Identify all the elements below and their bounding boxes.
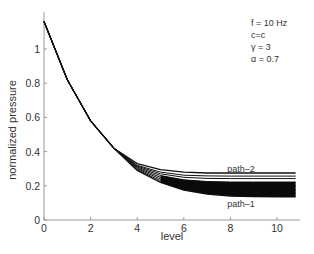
y-tick-label: 0.8 bbox=[25, 77, 40, 89]
param-frequency: f = 10 Hz bbox=[251, 17, 287, 29]
y-axis-label: normalized pressure bbox=[6, 80, 18, 180]
param-c: c=c bbox=[251, 29, 265, 41]
x-tick-label: 4 bbox=[134, 222, 140, 234]
x-tick-label: 8 bbox=[227, 222, 233, 234]
annotation-path-2: path–2 bbox=[227, 164, 255, 174]
y-tick-label: 0 bbox=[34, 214, 40, 226]
y-tick-label: 0.6 bbox=[25, 111, 40, 123]
param-alpha: α = 0.7 bbox=[251, 53, 279, 65]
x-tick-label: 10 bbox=[271, 222, 283, 234]
x-tick-label: 0 bbox=[41, 222, 47, 234]
param-gamma: γ = 3 bbox=[251, 41, 271, 53]
x-tick-label: 2 bbox=[88, 222, 94, 234]
y-tick-label: 0.2 bbox=[25, 180, 40, 192]
chart: 0246810 00.20.40.60.81 level normalized … bbox=[0, 0, 314, 254]
annotation-path-1: path–1 bbox=[227, 199, 255, 209]
y-tick-label: 1 bbox=[34, 43, 40, 55]
x-axis-label: level bbox=[161, 230, 184, 242]
y-tick-label: 0.4 bbox=[25, 146, 40, 158]
